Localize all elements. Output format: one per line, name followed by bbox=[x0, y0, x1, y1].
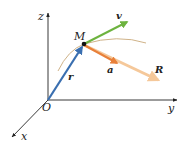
axes bbox=[12, 13, 177, 137]
origin-label: O bbox=[42, 101, 51, 114]
vector-v-label: v bbox=[116, 10, 122, 21]
z-axis-label: z bbox=[37, 10, 44, 23]
vector-r-label: r bbox=[68, 71, 74, 82]
y-axis-label: y bbox=[167, 102, 175, 115]
kinematics-diagram: z y x O M r v a R bbox=[0, 0, 189, 148]
vector-R-label: R bbox=[154, 64, 163, 75]
point-M-label: M bbox=[73, 30, 86, 43]
x-axis-label: x bbox=[21, 130, 28, 143]
vector-a-label: a bbox=[107, 64, 113, 75]
vector-r bbox=[48, 47, 82, 100]
vector-v bbox=[84, 22, 127, 44]
vector-a bbox=[84, 45, 117, 63]
